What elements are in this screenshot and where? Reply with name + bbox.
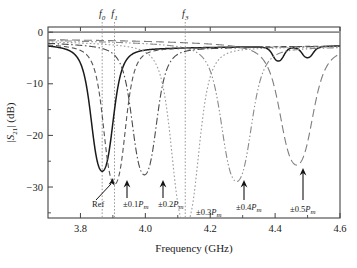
annotation-label: Ref xyxy=(92,199,104,209)
axis-ticks: 3.84.04.24.44.60−10−20−30 xyxy=(27,27,347,234)
x-tick-label: 4.4 xyxy=(269,223,283,234)
frequency-marker-label-f1: f1 xyxy=(111,8,117,22)
frequency-marker-lines xyxy=(102,22,185,218)
curve-Ref xyxy=(48,46,340,171)
y-tick-label: −10 xyxy=(27,78,43,89)
y-axis-label-group: |S21| (dB) xyxy=(4,102,19,142)
s21-frequency-response-chart: 3.84.04.24.44.60−10−20−30 f0f1f3Ref±0.1P… xyxy=(0,0,357,268)
frequency-marker-label-f3: f3 xyxy=(182,8,189,22)
annotation-label: ±0.1Pm xyxy=(123,199,149,211)
annotation-arrow-shaft xyxy=(96,184,111,200)
x-tick-label: 4.0 xyxy=(139,223,152,234)
y-tick-label: −30 xyxy=(27,182,43,193)
figure-root: 3.84.04.24.44.60−10−20−30 f0f1f3Ref±0.1P… xyxy=(0,0,357,268)
curve-±0.5Pm xyxy=(48,40,340,165)
x-axis-label: Frequency (GHz) xyxy=(155,242,233,255)
annotation-label: ±0.2Pm xyxy=(158,199,184,211)
annotation-label: ±0.5Pm xyxy=(290,204,316,216)
x-tick-label: 3.8 xyxy=(74,223,87,234)
data-curves xyxy=(48,40,340,218)
y-axis-label: |S21| (dB) xyxy=(4,102,19,142)
annotation-label: ±0.4Pm xyxy=(236,202,262,214)
x-tick-label: 4.6 xyxy=(333,223,346,234)
x-tick-label: 4.2 xyxy=(204,223,217,234)
frequency-marker-label-f0: f0 xyxy=(99,8,106,22)
y-tick-label: −20 xyxy=(27,130,43,141)
curve-±0.1Pm xyxy=(48,45,340,184)
y-tick-label: 0 xyxy=(38,27,43,38)
annotation-arrows xyxy=(96,168,306,200)
